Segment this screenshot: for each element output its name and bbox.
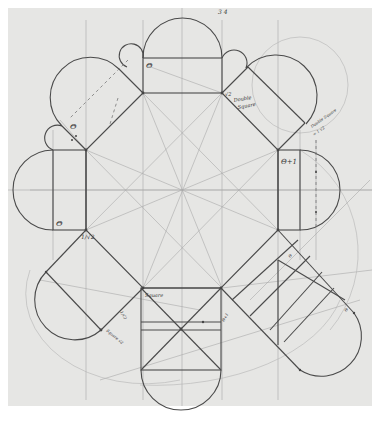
- label-top-scribble: 3 4: [218, 8, 228, 15]
- label-root2: √2: [225, 91, 231, 97]
- label-theta-left-lower: Θ: [56, 219, 63, 228]
- label-square: Square: [145, 292, 163, 299]
- label-theta-plus-one: Θ+1: [281, 158, 297, 166]
- label-one-over-root2: 1/√2: [81, 233, 95, 240]
- diagram-canvas: Θ Θ Θ Θ+1 √2 Double Square Double Square…: [0, 0, 383, 430]
- label-theta-top: Θ: [146, 61, 153, 70]
- geometry-drawing: Θ Θ Θ Θ+1 √2 Double Square Double Square…: [0, 0, 383, 430]
- label-theta-left-upper: Θ: [70, 122, 77, 131]
